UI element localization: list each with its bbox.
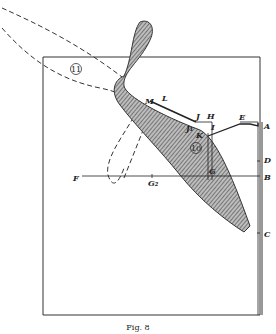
figure-caption: Fig. 8: [126, 323, 149, 332]
label-M: M: [144, 96, 155, 106]
label-L: L: [161, 93, 168, 103]
label-J1: J₁: [184, 123, 193, 133]
label-F: F: [72, 173, 80, 183]
line-I-E-A: [208, 123, 258, 136]
circled-number-11: 11: [71, 64, 82, 75]
label-I: I: [210, 122, 215, 132]
label-C: C: [264, 229, 271, 239]
label-G: G: [209, 166, 216, 176]
label-K: K: [195, 130, 204, 140]
label-B: B: [263, 172, 271, 182]
label-E: E: [238, 112, 246, 122]
label-A: A: [263, 121, 270, 131]
svg-text:10: 10: [191, 144, 201, 153]
label-H: H: [206, 111, 215, 121]
svg-text:11: 11: [71, 65, 81, 74]
hatched-member: [114, 21, 250, 232]
label-D: D: [263, 155, 271, 165]
diagram: 11 10 A B C D E F G G₂ H I J J₁ K L M Fi…: [0, 0, 276, 334]
label-G2: G₂: [148, 178, 159, 188]
label-J: J: [194, 111, 201, 121]
circled-number-10: 10: [191, 143, 202, 154]
